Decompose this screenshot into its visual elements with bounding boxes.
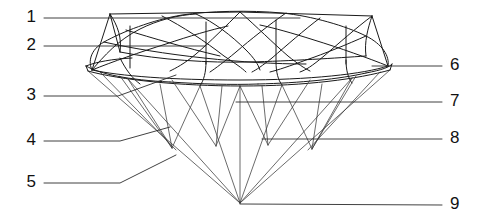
callout-6-number: 6 — [450, 55, 459, 74]
crown-facet-edge-6 — [120, 52, 366, 62]
diagram-canvas: 123456789 — [0, 0, 486, 222]
pavilion-facet-edge-15 — [268, 80, 310, 145]
diamond-facet-diagram: 123456789 — [0, 0, 486, 222]
pavilion-facet-edge-22 — [100, 72, 176, 150]
callout-5-number: 5 — [27, 172, 36, 191]
pavilion-facet-edge-20 — [120, 76, 172, 148]
callout-5-leader-line — [44, 155, 176, 183]
callout-9-number: 9 — [450, 194, 459, 213]
crown-facet-edge-26 — [260, 25, 388, 66]
girdle-edge-10 — [200, 62, 206, 86]
pavilion-facet-edge-14 — [262, 86, 268, 145]
callout-8-number: 8 — [450, 128, 459, 147]
girdle-edge-1 — [86, 58, 132, 66]
gem-pavilion-group — [88, 70, 390, 203]
pavilion-facet-edge-4 — [240, 78, 352, 203]
callout-7-number: 7 — [450, 91, 459, 110]
girdle-edge-11 — [276, 62, 282, 85]
callout-1-number: 1 — [27, 7, 36, 26]
pavilion-facet-edge-16 — [240, 86, 268, 145]
callout-4-leader-line — [44, 127, 170, 141]
pavilion-facet-edge-6 — [240, 85, 282, 203]
callout-2-number: 2 — [27, 35, 36, 54]
callout-4-number: 4 — [27, 130, 36, 149]
callout-9-leader-line — [240, 204, 442, 205]
pavilion-facet-edge-13 — [216, 86, 240, 146]
pavilion-facet-edge-9 — [172, 86, 200, 148]
pavilion-facet-edge-23 — [308, 72, 380, 150]
crown-facet-edge-2 — [92, 66, 388, 80]
callout-3-number: 3 — [27, 85, 36, 104]
pavilion-facet-edge-11 — [216, 86, 222, 146]
